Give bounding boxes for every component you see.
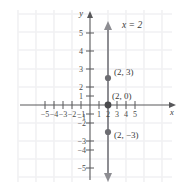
x-tick-label: −4 (50, 110, 59, 119)
y-tick-label: 5 (79, 29, 83, 38)
y-tick-label: 1 (79, 92, 83, 101)
y-tick-label: 2 (79, 83, 83, 92)
line-x-equals-2 (104, 21, 112, 182)
point-label-2-0: (2, 0) (112, 91, 132, 101)
point-2-3 (105, 75, 111, 81)
point-label-2-3: (2, 3) (114, 67, 134, 77)
x-tick-label: −2 (68, 110, 77, 119)
y-tick-label: 3 (79, 65, 83, 74)
x-tick-label: 2 (106, 110, 110, 119)
x-tick-label: 5 (133, 110, 137, 119)
x-tick-label: −3 (59, 110, 68, 119)
coordinate-plane-graph: −5 −4 −3 −2 −1 1 2 3 4 5 5 4 3 2 1 −1 −2… (0, 0, 187, 189)
graph-svg: −5 −4 −3 −2 −1 1 2 3 4 5 5 4 3 2 1 −1 −2… (0, 0, 187, 189)
point-2-neg3 (105, 129, 111, 135)
x-axis (20, 102, 176, 108)
x-axis-label: x (169, 107, 174, 117)
grid-lines (18, 10, 172, 182)
x-tick-label: 3 (115, 110, 119, 119)
x-tick-label: −5 (41, 110, 50, 119)
equation-label: x = 2 (121, 20, 142, 30)
y-tick-label: −4 (77, 146, 86, 155)
y-tick-label: 4 (79, 47, 83, 56)
y-tick-label: −2 (77, 119, 86, 128)
y-tick-label: −5 (77, 164, 86, 173)
x-tick-label: 1 (97, 110, 101, 119)
y-tick-label: −3 (77, 137, 86, 146)
y-axis-label: y (78, 8, 83, 18)
point-label-2-neg3: (2, −3) (114, 130, 139, 140)
point-2-0 (105, 102, 112, 109)
x-tick-label: 4 (124, 110, 128, 119)
